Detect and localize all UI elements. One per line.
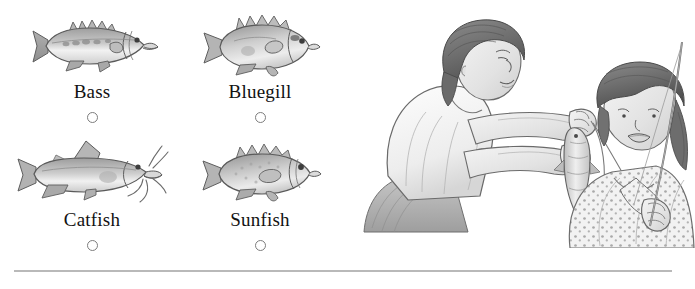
option-label-bass: Bass [7, 81, 177, 102]
radio-wrap-bass [7, 109, 177, 125]
option-label-catfish: Catfish [7, 209, 177, 230]
bottom-divider [14, 270, 672, 272]
option-catfish[interactable]: Catfish [7, 136, 177, 253]
option-bluegill[interactable]: Bluegill [175, 8, 345, 125]
option-bass[interactable]: Bass [7, 8, 177, 125]
catfish-fish-illustration [7, 136, 177, 208]
option-label-sunfish: Sunfish [175, 209, 345, 230]
radio-catfish[interactable] [87, 240, 98, 251]
radio-wrap-catfish [7, 237, 177, 253]
question-page: Bass [0, 0, 695, 289]
radio-bass[interactable] [87, 112, 98, 123]
fish-options-grid: Bass [0, 8, 340, 266]
radio-wrap-bluegill [175, 109, 345, 125]
bluegill-fish-illustration [175, 8, 345, 80]
woman-and-girl-fishing-illustration [348, 0, 695, 248]
option-label-bluegill: Bluegill [175, 81, 345, 102]
radio-wrap-sunfish [175, 237, 345, 253]
bass-fish-illustration [7, 8, 177, 80]
sunfish-fish-illustration [175, 136, 345, 208]
radio-sunfish[interactable] [255, 240, 266, 251]
radio-bluegill[interactable] [255, 112, 266, 123]
option-sunfish[interactable]: Sunfish [175, 136, 345, 253]
